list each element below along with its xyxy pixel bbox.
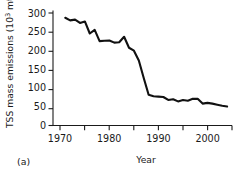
y-axis-title-tail: mt) (4, 0, 15, 13)
x-tick-label: 1970 (48, 133, 72, 144)
y-tick-label: 0 (40, 120, 46, 131)
y-axis-title-text: TSS mass emissions (10 (4, 17, 15, 129)
y-axis (49, 11, 54, 126)
y-axis-title: TSS mass emissions (103 mt) (4, 0, 15, 129)
y-tick-label: 50 (34, 101, 46, 112)
y-tick-labels: 300 250 200 150 100 50 0 (28, 8, 46, 131)
data-line-tss-mass-emissions (65, 18, 227, 107)
y-tick-label: 150 (28, 64, 46, 75)
y-tick-label: 100 (28, 82, 46, 93)
y-tick-label: 300 (28, 8, 46, 19)
chart-figure: TSS mass emissions (103 mt) 300 250 200 … (0, 0, 236, 178)
x-tick-labels: 1970 1980 1990 2000 (48, 133, 220, 144)
y-tick-label: 250 (28, 26, 46, 37)
y-tick-label: 200 (28, 45, 46, 56)
x-axis-title: Year (135, 154, 156, 165)
svg-text:TSS mass emissions (103 mt): TSS mass emissions (103 mt) (4, 0, 15, 129)
panel-label: (a) (17, 156, 30, 167)
x-tick-label: 2000 (195, 133, 219, 144)
x-tick-label: 1990 (146, 133, 170, 144)
x-tick-label: 1980 (97, 133, 121, 144)
x-axis (53, 126, 232, 131)
